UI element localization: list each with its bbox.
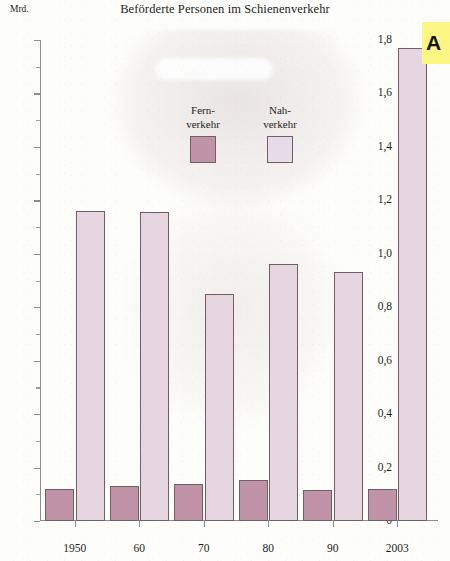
legend-label-line1: Nah- [269,104,291,116]
legend-item-nahverkehr: Nah- verkehr [247,104,313,163]
y-tick-major [34,200,40,201]
x-tick-label: 70 [198,542,210,554]
legend-item-label: Fern- verkehr [170,104,236,131]
y-tick-label: 0,8 [362,301,392,313]
y-tick-major [34,361,40,362]
bar-nahverkehr-80 [269,264,298,521]
y-tick-minor [36,174,40,175]
x-tick [333,521,334,527]
y-tick-major [34,147,40,148]
bar-nahverkehr-2003 [398,48,427,521]
x-tick [204,521,205,527]
chart-title: Beförderte Personen im Schienenverkehr [0,2,450,17]
y-tick-major [34,254,40,255]
y-tick-major [34,93,40,94]
plot-area: 1,81,61,41,21,00,80,60,40,20 19506070809… [40,30,440,530]
y-tick-label: 1,2 [362,194,392,206]
x-tick [75,521,76,527]
y-tick-major [34,40,40,41]
x-tick [268,521,269,527]
y-tick-label: 1,8 [362,34,392,46]
x-tick-label: 1950 [63,542,86,554]
y-tick-minor [36,494,40,495]
x-tick-label: 60 [134,542,146,554]
y-tick-minor [36,227,40,228]
legend-item-label: Nah- verkehr [247,104,313,131]
bar-nahverkehr-90 [334,272,363,521]
bar-nahverkehr-70 [205,294,234,521]
x-tick-label: 80 [263,542,275,554]
legend-swatch-fernverkehr [190,136,216,163]
bar-fernverkehr-90 [303,490,332,521]
y-tick-major [34,307,40,308]
y-tick-minor [36,387,40,388]
x-tick [397,521,398,527]
bar-fernverkehr-80 [239,480,268,521]
corner-annotation-tag: A [422,22,450,64]
y-tick-minor [36,334,40,335]
y-tick-label: 1,6 [362,87,392,99]
legend-label-line1: Fern- [191,104,215,116]
y-tick-label: 0,2 [362,462,392,474]
y-tick-major [34,414,40,415]
legend-label-line2: verkehr [186,118,220,130]
y-tick-minor [36,120,40,121]
bar-fernverkehr-60 [110,486,139,521]
legend-label-line2: verkehr [263,118,297,130]
legend-swatch-nahverkehr [267,136,293,163]
y-tick-label: 1,4 [362,141,392,153]
x-tick-label: 90 [327,542,339,554]
bar-fernverkehr-2003 [368,489,397,521]
legend-item-fernverkehr: Fern- verkehr [170,104,236,163]
y-tick-label: 0,4 [362,408,392,420]
y-tick-major [34,468,40,469]
bar-fernverkehr-1950 [45,489,74,521]
y-tick-major [34,521,40,522]
bar-fernverkehr-70 [174,484,203,521]
y-tick-minor [36,67,40,68]
bar-nahverkehr-60 [140,212,169,521]
x-tick-label: 2003 [386,542,409,554]
bar-nahverkehr-1950 [76,211,105,521]
y-axis-line [40,40,41,521]
y-tick-minor [36,441,40,442]
y-tick-label: 1,0 [362,248,392,260]
x-tick [139,521,140,527]
y-tick-label: 0,6 [362,355,392,367]
y-tick-minor [36,281,40,282]
